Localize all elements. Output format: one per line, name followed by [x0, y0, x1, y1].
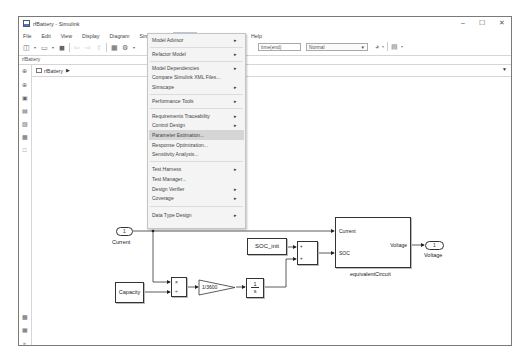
- submenu-arrow-icon: ▸: [234, 164, 237, 174]
- submenu-arrow-icon: ▸: [234, 193, 237, 203]
- submenu-arrow-icon: ▸: [234, 96, 237, 106]
- submenu-arrow-icon: ▸: [234, 82, 237, 92]
- menu-separator: [150, 61, 243, 62]
- menu-item-refactor-model[interactable]: Refactor Model▸: [149, 49, 244, 59]
- submenu-arrow-icon: ▸: [234, 120, 237, 130]
- integrator-denominator: s: [247, 288, 263, 294]
- subsystem-port-current: Current: [339, 228, 356, 234]
- inport-current[interactable]: 1: [116, 227, 133, 236]
- product-divide-port: ÷: [175, 288, 178, 294]
- analysis-menu: Model Advisor▸ Refactor Model▸ Model Dep…: [147, 33, 246, 229]
- sum-block[interactable]: + +: [297, 241, 318, 265]
- submenu-arrow-icon: ▸: [234, 210, 237, 220]
- outport-voltage-label: Voltage: [424, 252, 442, 258]
- menu-item-compare-xml[interactable]: Compare Simulink XML Files...: [149, 72, 244, 82]
- menu-item-model-advisor[interactable]: Model Advisor▸: [149, 35, 244, 45]
- menu-separator: [150, 94, 243, 95]
- signal-lines: [0, 0, 523, 361]
- menu-item-test-manager[interactable]: Test Manager...: [149, 174, 244, 184]
- menu-item-test-harness[interactable]: Test Harness▸: [149, 164, 244, 174]
- submenu-arrow-icon: ▸: [234, 35, 237, 45]
- menu-separator: [150, 108, 243, 109]
- soc-init-block[interactable]: SOC_init: [247, 238, 287, 255]
- menu-item-performance-tools[interactable]: Performance Tools▸: [149, 96, 244, 106]
- gain-value: 1/3600: [202, 284, 217, 290]
- sum-plus-port-2: +: [300, 256, 303, 261]
- menu-separator: [150, 206, 243, 207]
- capacity-block[interactable]: Capacity: [115, 282, 144, 303]
- integrator-block[interactable]: 1 s: [246, 278, 264, 298]
- menu-item-data-type-design[interactable]: Data Type Design▸: [149, 210, 244, 220]
- inport-current-label: Current: [112, 239, 130, 245]
- menu-item-parameter-estimation[interactable]: Parameter Estimation...: [149, 130, 244, 140]
- product-multiply-port: ×: [175, 279, 178, 285]
- product-block[interactable]: × ÷: [171, 277, 187, 297]
- equivalent-circuit-subsystem[interactable]: Current SOC Voltage: [335, 217, 411, 268]
- submenu-arrow-icon: ▸: [234, 49, 237, 59]
- menu-separator: [150, 161, 243, 162]
- menu-item-sensitivity-analysis[interactable]: Sensitivity Analysis...: [149, 149, 244, 159]
- subsystem-port-voltage: Voltage: [390, 242, 407, 248]
- menu-separator: [150, 47, 243, 48]
- menu-item-control-design[interactable]: Control Design▸: [149, 120, 244, 130]
- sum-plus-port-1: +: [300, 244, 303, 249]
- outport-voltage[interactable]: 1: [425, 241, 444, 250]
- subsystem-name-label: equivalentCircuit: [350, 271, 391, 277]
- integrator-numerator: 1: [247, 281, 263, 287]
- subsystem-port-soc: SOC: [339, 250, 350, 256]
- menu-item-coverage[interactable]: Coverage▸: [149, 193, 244, 203]
- menu-item-simscape[interactable]: Simscape▸: [149, 82, 244, 92]
